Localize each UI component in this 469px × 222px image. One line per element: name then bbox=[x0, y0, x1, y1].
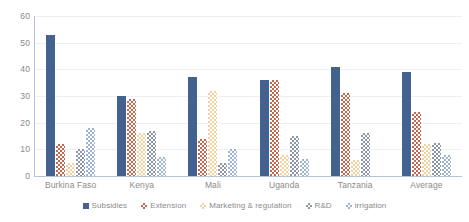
bar[interactable] bbox=[402, 72, 411, 176]
bar[interactable] bbox=[208, 91, 217, 176]
bar[interactable] bbox=[56, 144, 65, 176]
bar[interactable] bbox=[86, 128, 95, 176]
legend-swatch-icon bbox=[346, 203, 352, 209]
bar[interactable] bbox=[46, 35, 55, 176]
legend-label: irrigation bbox=[355, 201, 387, 211]
bar-group bbox=[35, 16, 106, 176]
bar-group bbox=[391, 16, 462, 176]
bar[interactable] bbox=[351, 160, 360, 176]
bar[interactable] bbox=[280, 155, 289, 176]
bar[interactable] bbox=[442, 155, 451, 176]
bar-group bbox=[106, 16, 177, 176]
legend-label: Marketing & regulation bbox=[209, 201, 291, 211]
bar[interactable] bbox=[218, 163, 227, 176]
x-axis-category-label: Burkina Faso bbox=[35, 178, 106, 194]
x-axis-category-label: Mali bbox=[177, 178, 248, 194]
legend-swatch-icon bbox=[83, 203, 89, 209]
legend-label: Extension bbox=[150, 201, 186, 211]
legend-item[interactable]: irrigation bbox=[346, 201, 387, 211]
y-axis-tick-label: 50 bbox=[20, 38, 30, 47]
bar[interactable] bbox=[147, 131, 156, 176]
bar[interactable] bbox=[361, 133, 370, 176]
x-axis-category-label: Average bbox=[391, 178, 462, 194]
legend-swatch-icon bbox=[306, 203, 312, 209]
x-axis-category-label: Tanzania bbox=[320, 178, 391, 194]
bar[interactable] bbox=[260, 80, 269, 176]
bar[interactable] bbox=[127, 99, 136, 176]
bar[interactable] bbox=[270, 80, 279, 176]
bar[interactable] bbox=[137, 133, 146, 176]
bar[interactable] bbox=[341, 93, 350, 176]
x-axis-category-label: Kenya bbox=[106, 178, 177, 194]
plot-area: 6050403020100 Burkina FasoKenyaMaliUgand… bbox=[0, 0, 469, 200]
legend-item[interactable]: Marketing & regulation bbox=[200, 201, 291, 211]
chart-legend: SubsidiesExtensionMarketing & regulation… bbox=[0, 198, 469, 214]
y-axis-tick-label: 60 bbox=[20, 12, 30, 21]
x-axis-category-label: Uganda bbox=[249, 178, 320, 194]
legend-swatch-icon bbox=[141, 203, 147, 209]
bar-groups bbox=[35, 16, 462, 176]
bar[interactable] bbox=[157, 157, 166, 176]
bar[interactable] bbox=[76, 149, 85, 176]
bar[interactable] bbox=[300, 159, 309, 176]
legend-item[interactable]: R&D bbox=[306, 201, 332, 211]
y-axis-tick-label: 40 bbox=[20, 65, 30, 74]
y-axis-tick-label: 30 bbox=[20, 92, 30, 101]
bar-group bbox=[320, 16, 391, 176]
legend-item[interactable]: Extension bbox=[141, 201, 186, 211]
legend-label: Subsidies bbox=[92, 201, 128, 211]
y-axis-tick-label: 10 bbox=[20, 145, 30, 154]
y-axis-tick-label: 20 bbox=[20, 118, 30, 127]
bar[interactable] bbox=[331, 67, 340, 176]
bar[interactable] bbox=[66, 163, 75, 176]
bar[interactable] bbox=[432, 143, 441, 176]
bar[interactable] bbox=[188, 77, 197, 176]
x-axis: Burkina FasoKenyaMaliUgandaTanzaniaAvera… bbox=[35, 178, 462, 194]
x-axis-line bbox=[34, 176, 462, 177]
legend-label: R&D bbox=[315, 201, 332, 211]
bar[interactable] bbox=[198, 139, 207, 176]
y-axis: 6050403020100 bbox=[0, 0, 34, 200]
bar[interactable] bbox=[228, 149, 237, 176]
bar[interactable] bbox=[412, 112, 421, 176]
legend-item[interactable]: Subsidies bbox=[83, 201, 128, 211]
legend-swatch-icon bbox=[200, 203, 206, 209]
bar-group bbox=[249, 16, 320, 176]
bar[interactable] bbox=[290, 136, 299, 176]
bar-group bbox=[177, 16, 248, 176]
bar[interactable] bbox=[117, 96, 126, 176]
bar[interactable] bbox=[422, 144, 431, 176]
bar-chart: 6050403020100 Burkina FasoKenyaMaliUgand… bbox=[0, 0, 469, 222]
y-axis-tick-label: 0 bbox=[25, 172, 30, 181]
